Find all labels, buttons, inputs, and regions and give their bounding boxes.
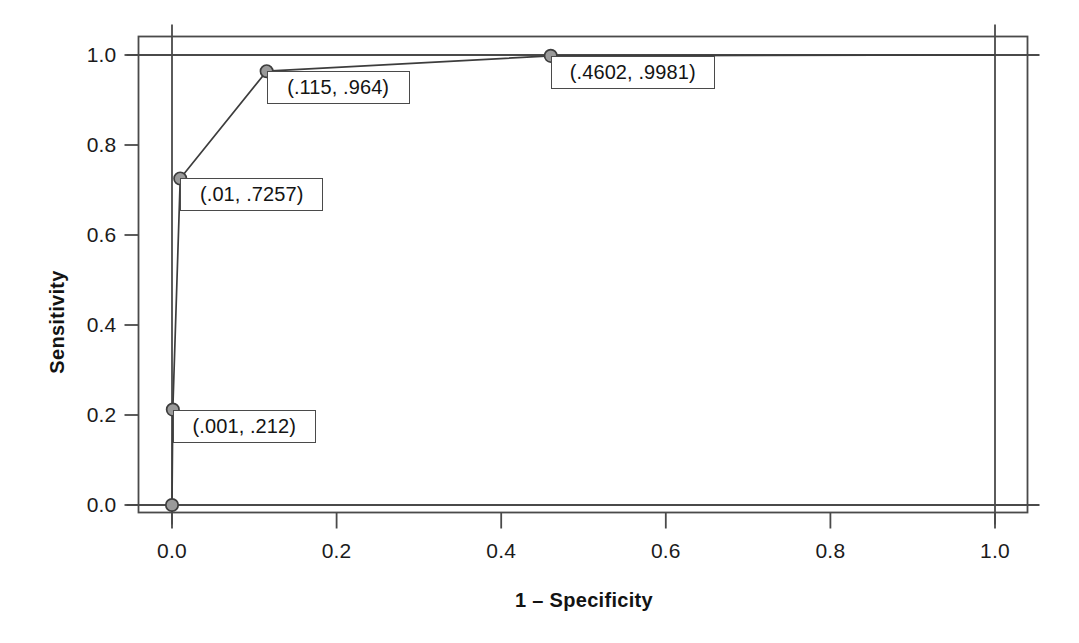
y-tick-label: 1.0: [59, 43, 117, 67]
y-axis-title: Sensitivity: [46, 270, 69, 373]
roc-point-marker: [166, 499, 178, 511]
axis-tick-marks: [125, 55, 996, 529]
x-tick-label: 1.0: [980, 539, 1010, 563]
y-tick-label: 0.2: [59, 403, 117, 427]
x-tick-label: 0.4: [486, 539, 516, 563]
data-point-callout: (.115, .964): [267, 71, 410, 104]
y-tick-label: 0.8: [59, 133, 117, 157]
y-tick-label: 0.0: [59, 493, 117, 517]
x-tick-label: 0.6: [651, 539, 681, 563]
x-tick-label: 0.8: [815, 539, 845, 563]
reference-axis-lines: [127, 25, 1040, 525]
data-point-callout: (.01, .7257): [180, 178, 323, 211]
roc-chart-figure: 0.00.20.40.60.81.0 0.00.20.40.60.81.0 Se…: [0, 0, 1079, 643]
y-tick-label: 0.6: [59, 223, 117, 247]
data-point-callout: (.001, .212): [173, 410, 316, 443]
x-axis-title: 1 – Specificity: [515, 589, 653, 612]
data-point-callout: (.4602, .9981): [551, 56, 715, 89]
x-tick-label: 0.2: [322, 539, 352, 563]
x-tick-label: 0.0: [157, 539, 187, 563]
